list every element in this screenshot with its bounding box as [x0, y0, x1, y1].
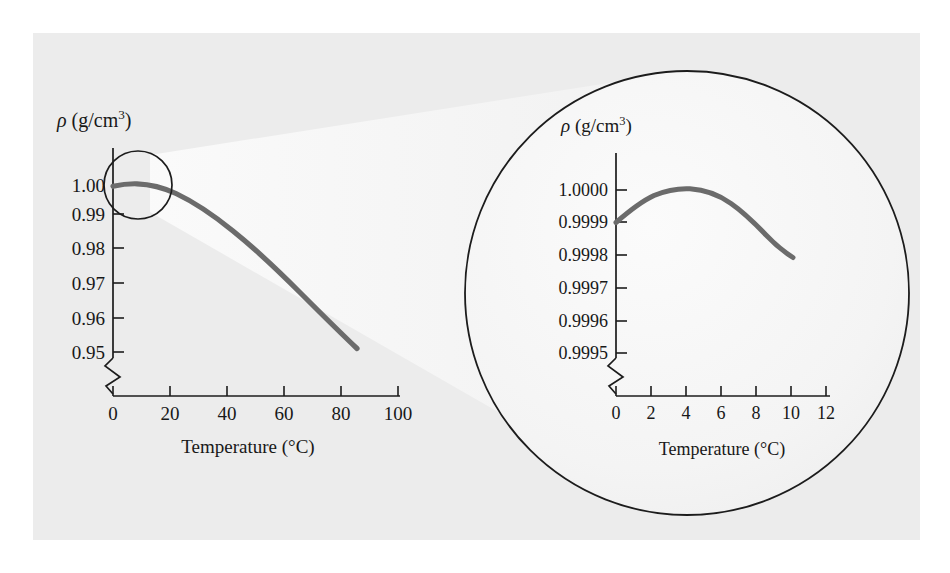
main-x-ticks [113, 386, 398, 396]
main-x-axis-title: Temperature (°C) [181, 437, 314, 456]
main-x-tick-label-2: 20 [161, 404, 180, 423]
inset-y-tick-label-6: 0.9995 [495, 344, 608, 362]
main-y-axis-label-exponent: 3 [118, 107, 125, 122]
main-y-tick-label-1: 1.00 [0, 176, 105, 195]
main-y-tick-label-4: 0.97 [0, 274, 105, 293]
density-of-water-figure [0, 0, 950, 573]
inset-y-tick-label-5: 0.9996 [495, 312, 608, 330]
inset-x-tick-label-1: 0 [612, 404, 621, 422]
inset-x-tick-label-4: 6 [717, 404, 726, 422]
inset-y-axis-label-rho: ρ [561, 115, 570, 136]
inset-y-tick-label-1: 1.0000 [495, 181, 608, 199]
main-y-axis-label-units: (g/cm [72, 109, 119, 131]
inset-x-tick-label-3: 4 [682, 404, 691, 422]
inset-y-tick-label-3: 0.9998 [495, 246, 608, 264]
figure-stage: ρ (g/cm3) 1.00 0.99 0.98 0.97 0.96 0.95 … [0, 0, 950, 573]
main-y-tick-label-5: 0.96 [0, 309, 105, 328]
inset-y-tick-label-4: 0.9997 [495, 279, 608, 297]
inset-x-tick-label-6: 10 [782, 404, 800, 422]
main-x-tick-label-3: 40 [218, 404, 237, 423]
main-x-tick-label-5: 80 [332, 404, 351, 423]
main-x-tick-label-1: 0 [108, 404, 118, 423]
inset-y-axis-label-units: (g/cm [575, 115, 619, 136]
main-y-axis-label-paren: ) [125, 109, 132, 131]
inset-x-tick-label-5: 8 [752, 404, 761, 422]
inset-x-tick-label-2: 2 [647, 404, 656, 422]
main-x-tick-label-6: 100 [384, 404, 413, 423]
main-x-tick-label-4: 60 [275, 404, 294, 423]
main-y-axis-label: ρ (g/cm3) [57, 108, 132, 130]
main-y-tick-label-6: 0.95 [0, 343, 105, 362]
inset-y-tick-label-2: 0.9999 [495, 213, 608, 231]
inset-x-tick-label-7: 12 [817, 404, 835, 422]
inset-x-axis-title: Temperature (°C) [659, 440, 785, 458]
main-y-tick-label-2: 0.99 [0, 205, 105, 224]
inset-y-axis-label: ρ (g/cm3) [561, 115, 632, 135]
main-y-tick-label-3: 0.98 [0, 239, 105, 258]
main-y-axis-label-rho: ρ [57, 109, 67, 131]
inset-y-axis-label-paren: ) [625, 115, 631, 136]
